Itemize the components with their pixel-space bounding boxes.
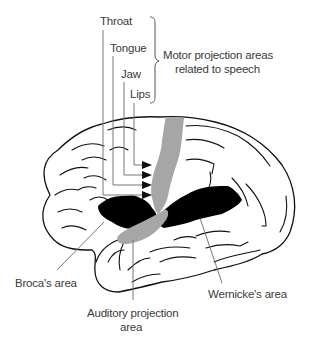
label-auditory-line2: area bbox=[120, 321, 143, 333]
arrow-tongue-icon bbox=[142, 181, 152, 189]
label-brocas-area: Broca's area bbox=[15, 277, 78, 289]
arrow-lips-icon bbox=[142, 161, 152, 169]
motor-leader-lines bbox=[103, 30, 152, 199]
label-auditory-line1: Auditory projection bbox=[87, 307, 178, 319]
wernicke-area bbox=[158, 186, 242, 228]
label-wernicke-area: Wernicke's area bbox=[208, 288, 288, 300]
label-tongue: Tongue bbox=[110, 42, 147, 54]
label-throat: Throat bbox=[100, 15, 133, 27]
label-motor-group-line2: related to speech bbox=[175, 63, 260, 75]
label-lips: Lips bbox=[130, 88, 151, 100]
label-jaw: Jaw bbox=[121, 68, 142, 80]
arrow-throat-icon bbox=[142, 191, 152, 199]
arrow-jaw-icon bbox=[142, 171, 152, 179]
brace-icon bbox=[150, 17, 159, 103]
label-motor-group-line1: Motor projection areas bbox=[163, 49, 273, 61]
brain-language-diagram: Throat Tongue Jaw Lips Motor projection … bbox=[0, 0, 310, 347]
